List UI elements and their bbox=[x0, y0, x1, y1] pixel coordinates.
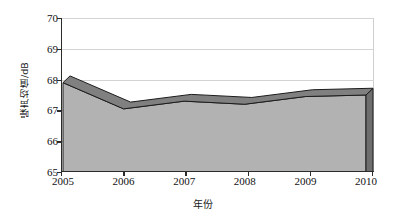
area-right-face bbox=[366, 88, 373, 172]
y-tick-label: 68 bbox=[34, 74, 58, 85]
x-axis-tick-labels: 200520062007200820092010 bbox=[61, 175, 374, 191]
x-tick-label: 2006 bbox=[113, 175, 135, 187]
y-axis-title: 噪声均值/dB bbox=[18, 38, 32, 143]
y-axis-tick-labels: 656667686970 bbox=[33, 0, 58, 223]
x-tick-label: 2005 bbox=[52, 175, 74, 187]
x-tick-label: 2010 bbox=[355, 175, 377, 187]
y-tick-label: 69 bbox=[34, 43, 58, 54]
area-series-3d bbox=[61, 18, 374, 172]
x-tick-label: 2007 bbox=[173, 175, 195, 187]
y-axis-line bbox=[61, 18, 62, 172]
x-axis-line bbox=[61, 171, 374, 172]
x-tick-label: 2008 bbox=[234, 175, 256, 187]
y-tick-label: 66 bbox=[34, 136, 58, 147]
chart-container: 噪声均值/dB 656667686970 2005200620072008200… bbox=[0, 0, 405, 223]
plot-area bbox=[61, 18, 374, 172]
x-axis-title: 年份 bbox=[0, 196, 405, 211]
x-tick-label: 2009 bbox=[294, 175, 316, 187]
y-tick-label: 67 bbox=[34, 105, 58, 116]
y-tick-label: 70 bbox=[34, 13, 58, 24]
